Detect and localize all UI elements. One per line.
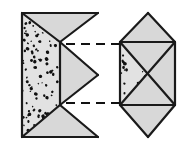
crystal-diagram	[0, 0, 195, 153]
figure-container	[0, 0, 195, 153]
